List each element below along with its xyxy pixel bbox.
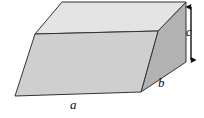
dimension-label-c: c <box>186 26 191 38</box>
figure-container: a b c <box>0 0 204 118</box>
dimension-label-b: b <box>158 76 165 89</box>
front-face <box>15 31 158 96</box>
dimension-label-a: a <box>70 98 77 111</box>
parallelepiped-diagram <box>0 0 204 118</box>
